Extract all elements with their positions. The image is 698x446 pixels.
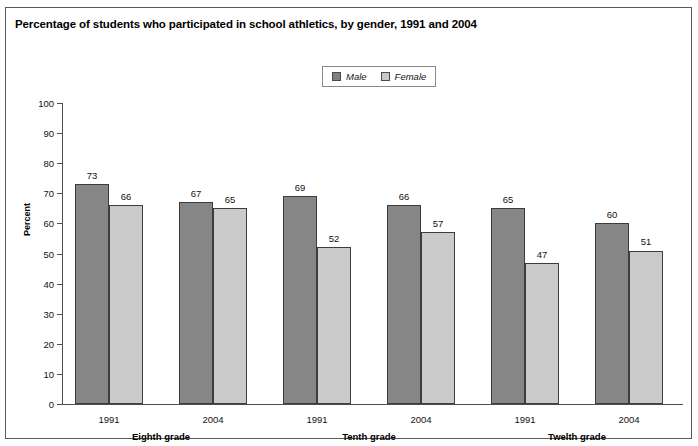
y-axis-tick (57, 223, 62, 224)
bar-male-2004-1 (179, 202, 213, 404)
y-axis-label: 50 (10, 250, 54, 259)
x-axis-year-label: 2004 (169, 414, 257, 425)
x-axis-year-label: 1991 (481, 414, 569, 425)
x-axis-year-label: 2004 (585, 414, 673, 425)
bar-value-label: 65 (213, 194, 247, 205)
y-axis-tick (57, 133, 62, 134)
bar-male-2004-3 (387, 205, 421, 404)
y-axis-label: 90 (10, 129, 54, 138)
bar-value-label: 66 (387, 191, 421, 202)
y-axis-tick (57, 374, 62, 375)
bar-female-1991-4 (525, 263, 559, 404)
y-axis-label: 0 (10, 400, 54, 409)
y-axis-tick (57, 314, 62, 315)
x-axis-group-label: Tenth grade (289, 431, 449, 442)
bar-female-1991-2 (317, 247, 351, 404)
legend-label-male: Male (346, 71, 367, 82)
y-axis-label: 40 (10, 280, 54, 289)
legend-item-female: Female (381, 71, 427, 82)
bar-value-label: 47 (525, 249, 559, 260)
plot-area: 0102030405060708090100 73666765695266576… (62, 103, 683, 404)
bar-value-label: 66 (109, 191, 143, 202)
legend-item-male: Male (332, 71, 367, 82)
bar-value-label: 73 (75, 170, 109, 181)
y-axis-tick (57, 344, 62, 345)
chart-title: Percentage of students who participated … (15, 18, 655, 30)
y-axis-label: 70 (10, 189, 54, 198)
bar-female-1991-0 (109, 205, 143, 404)
bar-value-label: 51 (629, 236, 663, 247)
y-axis-tick (57, 404, 62, 405)
y-axis-label: 20 (10, 340, 54, 349)
y-axis-tick (57, 103, 62, 104)
x-axis-year-label: 1991 (65, 414, 153, 425)
bar-value-label: 67 (179, 188, 213, 199)
legend-label-female: Female (395, 71, 427, 82)
bar-male-2004-5 (595, 223, 629, 404)
x-axis-year-label: 1991 (273, 414, 361, 425)
bar-female-2004-5 (629, 251, 663, 405)
bar-male-1991-0 (75, 184, 109, 404)
bar-value-label: 69 (283, 182, 317, 193)
chart-figure: Percentage of students who participated … (0, 0, 698, 446)
y-axis-tick (57, 284, 62, 285)
x-axis-year-label: 2004 (377, 414, 465, 425)
bar-male-1991-4 (491, 208, 525, 404)
y-axis-tick (57, 193, 62, 194)
y-axis-label: 60 (10, 219, 54, 228)
y-axis-label: 10 (10, 370, 54, 379)
x-axis-line (62, 404, 683, 405)
bar-male-1991-2 (283, 196, 317, 404)
bar-value-label: 65 (491, 194, 525, 205)
y-axis-label: 30 (10, 310, 54, 319)
legend-swatch-male-icon (332, 72, 341, 81)
y-axis-label: 100 (10, 99, 54, 108)
bar-value-label: 52 (317, 233, 351, 244)
bar-female-2004-1 (213, 208, 247, 404)
y-axis-tick (57, 254, 62, 255)
chart-legend: Male Female (322, 66, 436, 87)
bar-value-label: 60 (595, 209, 629, 220)
legend-swatch-female-icon (381, 72, 390, 81)
bar-value-label: 57 (421, 218, 455, 229)
bar-female-2004-3 (421, 232, 455, 404)
x-axis-group-label: Eighth grade (81, 431, 241, 442)
x-axis-group-label: Twelth grade (497, 431, 657, 442)
y-axis-label: 80 (10, 159, 54, 168)
y-axis-line (62, 103, 63, 404)
y-axis-tick (57, 163, 62, 164)
